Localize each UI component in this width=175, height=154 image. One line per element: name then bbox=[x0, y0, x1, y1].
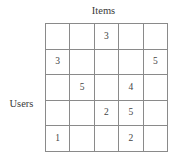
matrix-cell: 4 bbox=[119, 75, 143, 101]
matrix-cell bbox=[70, 24, 94, 50]
matrix-cell bbox=[70, 126, 94, 152]
matrix-cell bbox=[46, 100, 70, 126]
matrix-cell: 5 bbox=[70, 75, 94, 101]
matrix-cell bbox=[143, 100, 167, 126]
matrix-cell: 3 bbox=[94, 24, 118, 50]
matrix-cell bbox=[46, 75, 70, 101]
matrix-cell bbox=[119, 49, 143, 75]
matrix-cell: 5 bbox=[119, 100, 143, 126]
matrix-cell: 3 bbox=[46, 49, 70, 75]
matrix-cell bbox=[94, 49, 118, 75]
matrix-cell: 1 bbox=[46, 126, 70, 152]
matrix-cell bbox=[70, 100, 94, 126]
rating-matrix-table: 3 3 5 5 4 2 5 bbox=[45, 23, 168, 152]
rating-matrix-figure: Items Users 3 3 5 5 4 bbox=[0, 0, 175, 154]
table-row: 1 2 bbox=[46, 126, 168, 152]
items-axis-label: Items bbox=[45, 4, 162, 18]
table-row: 2 5 bbox=[46, 100, 168, 126]
users-axis-label: Users bbox=[0, 97, 43, 111]
matrix-cell: 2 bbox=[94, 100, 118, 126]
matrix-cell bbox=[143, 24, 167, 50]
matrix-cell bbox=[70, 49, 94, 75]
table-row: 5 4 bbox=[46, 75, 168, 101]
matrix-cell bbox=[46, 24, 70, 50]
matrix-cell: 2 bbox=[119, 126, 143, 152]
table-row: 3 5 bbox=[46, 49, 168, 75]
table-row: 3 bbox=[46, 24, 168, 50]
matrix-cell bbox=[94, 126, 118, 152]
matrix-body: 3 3 5 5 4 2 5 bbox=[46, 24, 168, 152]
matrix-cell bbox=[143, 126, 167, 152]
matrix-cell bbox=[119, 24, 143, 50]
matrix-cell: 5 bbox=[143, 49, 167, 75]
matrix-cell bbox=[143, 75, 167, 101]
matrix-cell bbox=[94, 75, 118, 101]
